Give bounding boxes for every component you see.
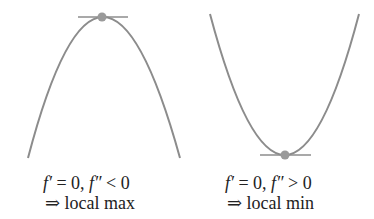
inequality: < 0	[102, 173, 130, 193]
conclusion-text: local max	[65, 193, 135, 213]
min-point-marker	[281, 151, 290, 160]
conclusion-text: local min	[247, 193, 314, 213]
equals-zero: = 0,	[234, 173, 271, 193]
implies-arrow-icon: ⇒	[45, 193, 60, 213]
implies-arrow-icon: ⇒	[227, 193, 242, 213]
local-max-conclusion: ⇒ local max	[45, 194, 135, 212]
local-min-conclusion: ⇒ local min	[227, 194, 314, 212]
local-max-graph	[28, 13, 180, 159]
max-point-marker	[98, 13, 107, 22]
concave-down-curve	[28, 17, 180, 158]
inequality: > 0	[284, 173, 312, 193]
local-min-graph	[210, 14, 359, 160]
local-max-condition: f′ = 0, f″ < 0	[43, 174, 130, 192]
equals-zero: = 0,	[52, 173, 89, 193]
f-double-prime-symbol: f″	[89, 173, 102, 193]
f-prime-symbol: f′	[43, 173, 52, 193]
local-min-condition: f′ = 0, f″ > 0	[225, 174, 312, 192]
f-prime-symbol: f′	[225, 173, 234, 193]
f-double-prime-symbol: f″	[271, 173, 284, 193]
concave-up-curve	[210, 14, 359, 155]
